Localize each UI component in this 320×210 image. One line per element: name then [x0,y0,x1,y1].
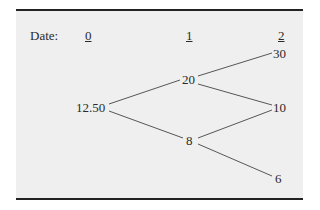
node-root: 12.50 [76,101,105,114]
node-updown: 10 [273,101,286,114]
edge-root-down [109,111,183,138]
date-1: 1 [186,29,193,42]
edge-down-downdown [198,144,272,176]
node-downdown: 6 [275,172,282,185]
node-upup: 30 [273,47,286,60]
edge-down-downup [198,110,272,138]
date-label: Date: [30,29,58,42]
node-down: 8 [186,134,193,147]
edge-up-updown [198,84,272,105]
date-0: 0 [85,29,92,42]
node-up: 20 [182,73,195,86]
edge-up-upup [198,53,272,76]
date-2: 2 [278,29,285,42]
edge-root-up [109,80,180,104]
